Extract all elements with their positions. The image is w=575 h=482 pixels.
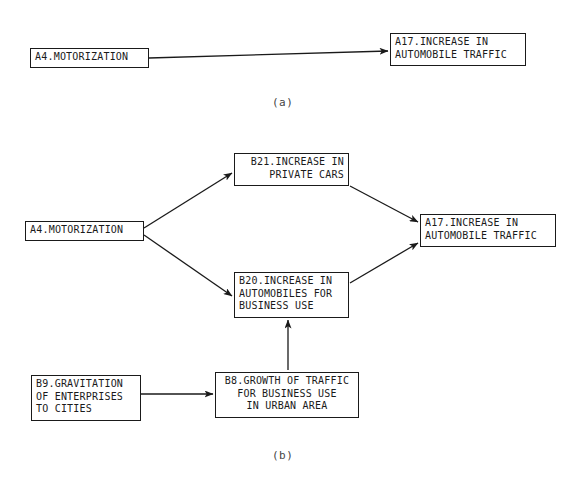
node-text-line: B21.INCREASE IN — [239, 156, 344, 169]
figure-canvas: A4.MOTORIZATIONA17.INCREASE INAUTOMOBILE… — [0, 0, 575, 482]
node-text-line: AUTOMOBILES FOR — [239, 288, 344, 301]
node-text-line: OF ENTERPRISES — [36, 391, 136, 404]
node-a17-increase-in-automobile-traffic[interactable]: A17.INCREASE INAUTOMOBILE TRAFFIC — [390, 33, 526, 66]
node-a4-motorization[interactable]: A4.MOTORIZATION — [30, 48, 149, 68]
node-a4-motorization[interactable]: A4.MOTORIZATION — [25, 221, 144, 241]
node-b9-gravitation-of-enterprises-to-cities[interactable]: B9.GRAVITATIONOF ENTERPRISESTO CITIES — [31, 375, 141, 421]
node-text-line: B20.INCREASE IN — [239, 275, 344, 288]
node-text-line: A17.INCREASE IN — [395, 36, 521, 49]
panel-caption-panel-b: (b) — [272, 449, 293, 462]
node-b8-growth-of-traffic-for-business-use-in-urban-area[interactable]: B8.GROWTH OF TRAFFICFOR BUSINESS USEIN U… — [215, 372, 359, 418]
edge-b20-to-a17 — [350, 243, 418, 283]
node-text-line: B9.GRAVITATION — [36, 378, 136, 391]
node-text-line: IN URBAN AREA — [220, 400, 354, 413]
node-b20-increase-in-automobiles-for-business-use[interactable]: B20.INCREASE INAUTOMOBILES FORBUSINESS U… — [234, 272, 349, 318]
edge-a4-to-b21 — [144, 173, 232, 228]
node-b21-increase-in-private-cars[interactable]: B21.INCREASE INPRIVATE CARS — [234, 153, 349, 186]
node-text-line: BUSINESS USE — [239, 300, 344, 313]
panel-caption-panel-a: (a) — [272, 96, 293, 109]
edge-a4-to-a17 — [149, 51, 388, 58]
node-a17-increase-in-automobile-traffic[interactable]: A17.INCREASE INAUTOMOBILE TRAFFIC — [420, 214, 556, 247]
node-text-line: FOR BUSINESS USE — [220, 388, 354, 401]
edge-a4-to-b20 — [144, 235, 232, 296]
node-text-line: A4.MOTORIZATION — [30, 224, 139, 237]
node-text-line: A4.MOTORIZATION — [35, 51, 144, 64]
node-text-line: AUTOMOBILE TRAFFIC — [395, 49, 521, 62]
node-text-line: TO CITIES — [36, 403, 136, 416]
node-text-line: B8.GROWTH OF TRAFFIC — [220, 375, 354, 388]
node-text-line: AUTOMOBILE TRAFFIC — [425, 230, 551, 243]
node-text-line: A17.INCREASE IN — [425, 217, 551, 230]
edge-b21-to-a17 — [350, 186, 418, 222]
node-text-line: PRIVATE CARS — [239, 169, 344, 182]
